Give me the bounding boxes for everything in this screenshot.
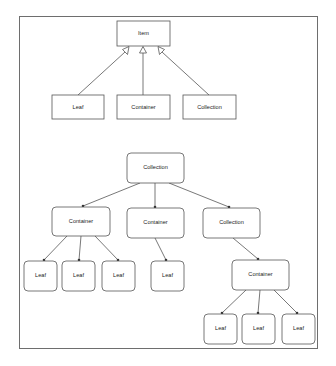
class-container-label: Container xyxy=(131,104,155,110)
class-item-label: Item xyxy=(138,30,149,36)
node-leaf-6[interactable]: Leaf xyxy=(242,314,275,344)
node-label: Leaf xyxy=(253,325,264,331)
composite-diagram: Item Leaf Container Collection xyxy=(0,0,336,366)
containment-edges xyxy=(43,183,299,314)
class-container[interactable]: Container xyxy=(117,95,170,119)
inherit-arrow-icon xyxy=(140,47,147,54)
inheritance-edges xyxy=(78,47,209,96)
node-leaf-4[interactable]: Leaf xyxy=(151,261,184,291)
node-label: Collection xyxy=(143,164,168,170)
class-collection-label: Collection xyxy=(197,104,222,110)
node-label: Container xyxy=(69,218,93,224)
node-leaf-5[interactable]: Leaf xyxy=(204,314,237,344)
node-container-2[interactable]: Container xyxy=(127,208,184,238)
node-label: Leaf xyxy=(215,325,226,331)
node-leaf-3[interactable]: Leaf xyxy=(102,261,135,291)
node-leaf-2[interactable]: Leaf xyxy=(62,261,95,291)
node-root-collection[interactable]: Collection xyxy=(127,153,184,183)
node-label: Collection xyxy=(219,219,244,225)
node-label: Leaf xyxy=(35,272,46,278)
class-leaf-label: Leaf xyxy=(73,104,84,110)
node-label: Leaf xyxy=(162,272,173,278)
node-collection-1[interactable]: Collection xyxy=(203,208,260,238)
class-item[interactable]: Item xyxy=(117,21,170,46)
node-label: Leaf xyxy=(293,325,304,331)
class-collection[interactable]: Collection xyxy=(183,95,236,119)
node-label: Container xyxy=(143,219,167,225)
node-leaf-1[interactable]: Leaf xyxy=(24,261,57,291)
class-leaf[interactable]: Leaf xyxy=(52,95,104,119)
node-container-3[interactable]: Container xyxy=(232,260,289,290)
node-label: Leaf xyxy=(113,272,124,278)
node-container-1[interactable]: Container xyxy=(52,207,110,236)
node-leaf-7[interactable]: Leaf xyxy=(282,314,315,344)
node-label: Container xyxy=(248,271,272,277)
node-label: Leaf xyxy=(73,272,84,278)
